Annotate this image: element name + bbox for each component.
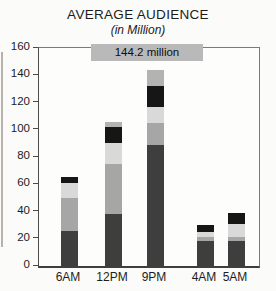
scan-page-edge-artifact	[1, 52, 3, 247]
x-tick-label-9pm: 9PM	[142, 270, 167, 284]
segment-medium-gray	[147, 123, 164, 145]
chart-canvas: AVERAGE AUDIENCE (in Million) 144.2 mill…	[0, 0, 276, 291]
segment-light-gray	[105, 143, 122, 163]
segment-light-gray	[228, 224, 245, 238]
segment-medium-gray	[61, 198, 78, 231]
segment-top-gray	[147, 70, 164, 87]
y-tick-mark-40	[33, 210, 38, 211]
chart-subtitle: (in Million)	[0, 23, 276, 37]
stacked-bar-9pm	[147, 70, 164, 266]
y-tick-label-20: 20	[0, 231, 30, 243]
stacked-bar-5am	[228, 213, 245, 266]
y-tick-mark-60	[33, 183, 38, 184]
segment-bottom-dark-gray	[147, 145, 164, 266]
y-tick-mark-80	[33, 156, 38, 157]
segment-black	[197, 225, 214, 232]
y-tick-mark-160	[33, 47, 38, 48]
segment-bottom-dark-gray	[105, 214, 122, 266]
y-tick-label-160: 160	[0, 40, 30, 52]
y-tick-label-80: 80	[0, 149, 30, 161]
segment-medium-gray	[105, 164, 122, 214]
segment-black	[228, 213, 245, 224]
annotation-callout: 144.2 million	[91, 44, 203, 61]
stacked-bar-4am	[197, 225, 214, 266]
segment-light-gray	[147, 107, 164, 123]
segment-bottom-dark-gray	[228, 241, 245, 266]
x-tick-label-6am: 6AM	[56, 270, 81, 284]
segment-light-gray	[61, 183, 78, 198]
y-tick-label-140: 140	[0, 67, 30, 79]
plot-area: 144.2 million	[38, 47, 260, 268]
y-tick-mark-120	[33, 101, 38, 102]
y-tick-label-40: 40	[0, 204, 30, 216]
segment-bottom-dark-gray	[197, 241, 214, 266]
y-tick-label-120: 120	[0, 95, 30, 107]
y-tick-mark-0	[33, 265, 38, 266]
x-tick-label-5am: 5AM	[223, 270, 248, 284]
chart-title: AVERAGE AUDIENCE	[0, 7, 276, 22]
y-tick-mark-20	[33, 237, 38, 238]
segment-bottom-dark-gray	[61, 231, 78, 266]
y-tick-mark-100	[33, 128, 38, 129]
segment-black	[105, 127, 122, 143]
x-tick-label-4am: 4AM	[192, 270, 217, 284]
stacked-bar-12pm	[105, 122, 122, 266]
y-tick-mark-140	[33, 74, 38, 75]
stacked-bar-6am	[61, 177, 78, 266]
y-tick-label-60: 60	[0, 176, 30, 188]
x-tick-label-12pm: 12PM	[96, 270, 127, 284]
y-tick-label-100: 100	[0, 122, 30, 134]
y-tick-label-0: 0	[0, 258, 30, 270]
segment-black	[147, 86, 164, 106]
